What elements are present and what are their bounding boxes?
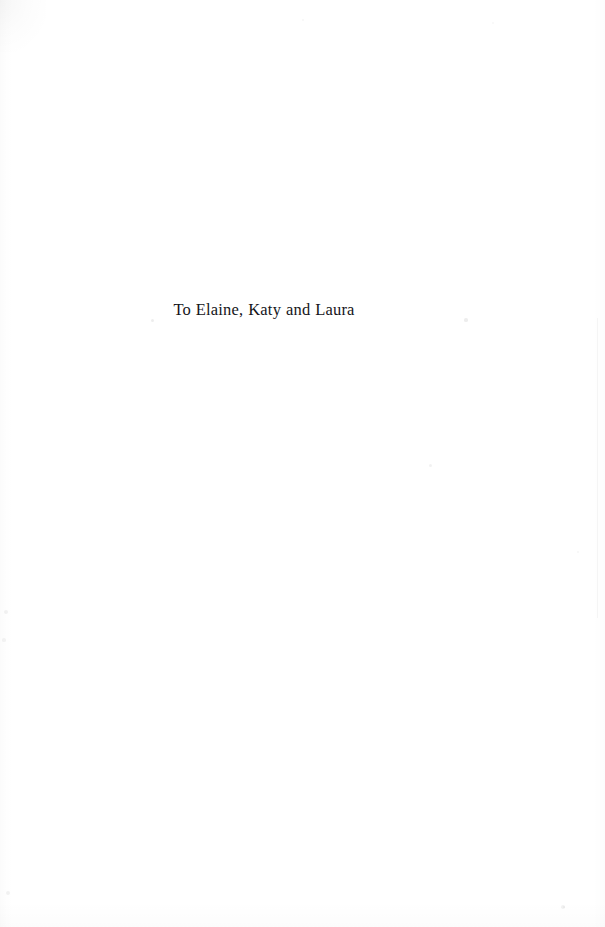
scan-shading-bottom-edge bbox=[0, 901, 605, 927]
speck-left-margin-b bbox=[2, 638, 5, 641]
scan-shading-right-edge bbox=[593, 0, 605, 927]
speck-lower-right-b bbox=[563, 906, 565, 908]
speck-top-right bbox=[492, 22, 494, 24]
scan-shading-top-left bbox=[0, 0, 46, 52]
scan-edge-line bbox=[597, 318, 598, 618]
scan-shading-left-edge bbox=[0, 0, 14, 927]
speck-left-margin-a bbox=[4, 610, 8, 614]
speck-top-center bbox=[302, 19, 305, 22]
dedication-text: To Elaine, Katy and Laura bbox=[173, 299, 354, 321]
speck-mid-right bbox=[577, 551, 580, 554]
speck-upper-right bbox=[429, 464, 432, 467]
speck-left-margin-c bbox=[6, 891, 11, 896]
dedication-page: To Elaine, Katy and Laura bbox=[0, 0, 605, 927]
speck-lower-right-a bbox=[561, 905, 565, 909]
dedication-block: To Elaine, Katy and Laura bbox=[0, 299, 528, 321]
